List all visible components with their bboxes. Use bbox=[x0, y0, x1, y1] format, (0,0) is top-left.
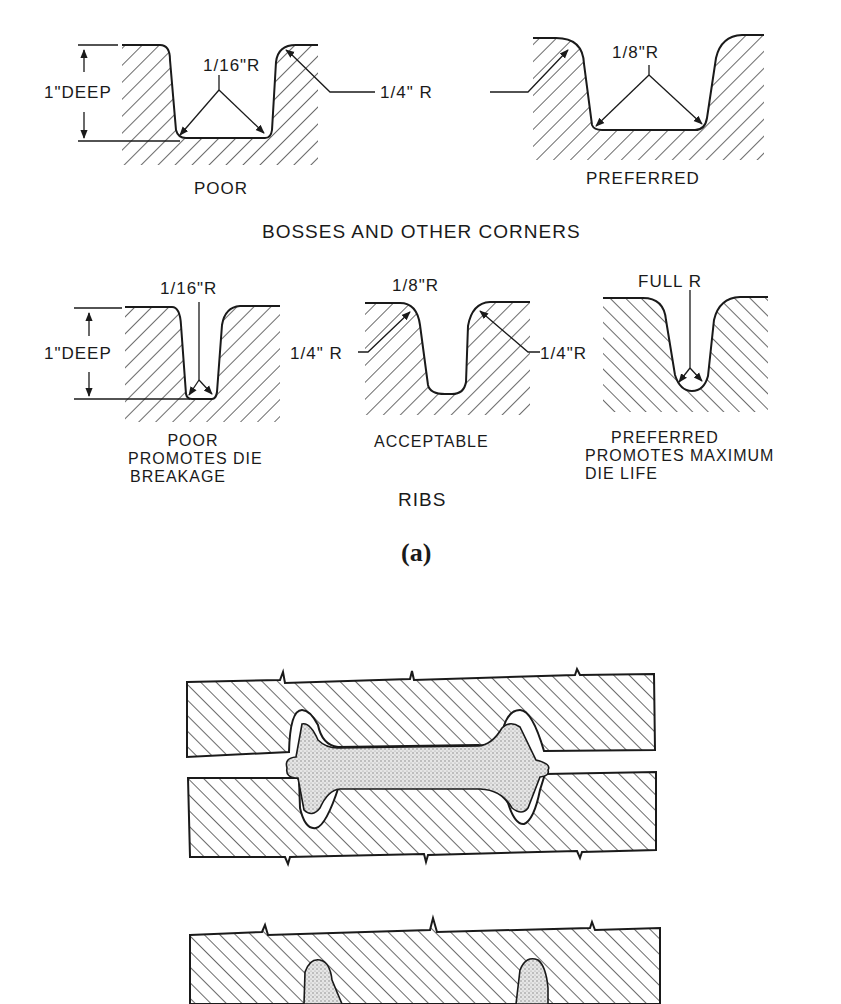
rib-acceptable-caption: ACCEPTABLE bbox=[374, 434, 489, 450]
boss-poor-caption: POOR bbox=[194, 180, 248, 197]
rib-poor-caption: POOR PROMOTES DIE BREAKAGE bbox=[128, 433, 258, 485]
rib-acceptable-radius-label: 1/8"R bbox=[392, 277, 439, 294]
boss-poor-section bbox=[78, 45, 318, 165]
corner-radius-label: 1/4" R bbox=[380, 84, 433, 101]
boss-preferred-radius-label: 1/8"R bbox=[612, 44, 659, 61]
ribs-title: RIBS bbox=[398, 490, 446, 509]
rib-acceptable-section bbox=[358, 302, 540, 415]
upper-die-partial bbox=[190, 918, 660, 1004]
boss-preferred-caption: PREFERRED bbox=[586, 170, 700, 187]
boss-poor-radius-label: 1/16"R bbox=[203, 57, 260, 74]
rib-preferred-radius-label: FULL R bbox=[638, 273, 702, 290]
rib-poor-radius-label: 1/16"R bbox=[160, 280, 217, 297]
rib-poor-depth-label: 1"DEEP bbox=[44, 345, 112, 362]
rib-preferred-section bbox=[603, 290, 768, 412]
figure-label: (a) bbox=[401, 540, 431, 566]
die-assembly-closed bbox=[187, 669, 656, 864]
boss-poor-depth-label: 1"DEEP bbox=[44, 84, 112, 101]
rib-acceptable-right-corner-label: 1/4"R bbox=[540, 345, 587, 362]
rib-acceptable-left-corner-label: 1/4" R bbox=[290, 345, 343, 362]
bosses-title: BOSSES AND OTHER CORNERS bbox=[262, 222, 581, 241]
rib-preferred-caption: PREFERRED PROMOTES MAXIMUM DIE LIFE bbox=[585, 430, 785, 482]
